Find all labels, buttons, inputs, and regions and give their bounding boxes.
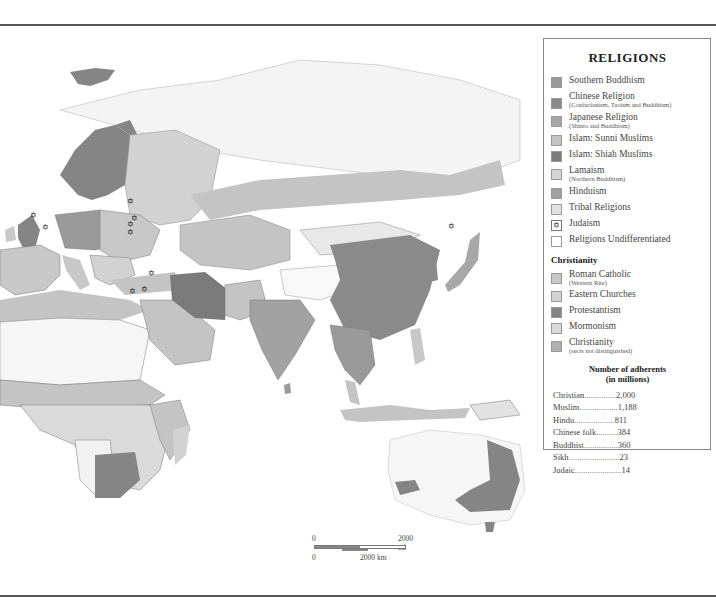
adherents-name: Judaic bbox=[553, 464, 575, 477]
legend-item-lamaism: Lamaism(Northern Buddhism) bbox=[551, 166, 704, 183]
leader-dots: ................... bbox=[574, 414, 614, 427]
bottom-rule bbox=[0, 595, 716, 597]
adherents-row-muslim: Muslim ..................1,188 bbox=[551, 401, 704, 414]
legend-label: Tribal Religions bbox=[569, 203, 631, 213]
swatch-eastern-churches bbox=[551, 291, 562, 302]
swatch-tribal bbox=[551, 204, 562, 215]
adherents-value: 360 bbox=[618, 439, 631, 452]
swatch-roman-catholic bbox=[551, 273, 562, 284]
swatch-christianity-other bbox=[551, 341, 562, 352]
leader-dots: .......... bbox=[596, 426, 617, 439]
judaism-marker-odessa: ✡ bbox=[127, 228, 134, 237]
adherents-row-christian: Christian ...............2,000 bbox=[551, 389, 704, 402]
legend-item-roman-catholic: Roman Catholic(Western Rite) bbox=[551, 270, 704, 287]
adherents-name: Buddhist bbox=[553, 439, 584, 452]
adherents-name: Sikh bbox=[553, 451, 569, 464]
legend-label: Religions Undifferentiated bbox=[569, 235, 670, 245]
swatch-undifferentiated bbox=[551, 236, 562, 247]
adherents-row-hindu: Hindu ...................811 bbox=[551, 414, 704, 427]
judaism-marker-moscow: ✡ bbox=[127, 197, 134, 206]
legend-label: Mormonism bbox=[569, 322, 616, 332]
judaism-marker-israel: ✡ bbox=[141, 285, 148, 294]
swatch-southern-buddhism bbox=[551, 77, 562, 88]
adherents-name: Chinese folk bbox=[553, 426, 596, 439]
swatch-lamaism bbox=[551, 169, 562, 180]
judaism-marker-paris: ✡ bbox=[42, 223, 49, 232]
scale-bar-km-fill bbox=[342, 549, 368, 551]
adherents-heading: Number of adherents (in millions) bbox=[551, 365, 704, 385]
legend-item-protestantism: Protestantism bbox=[551, 306, 704, 318]
adherents-name: Hindu bbox=[553, 414, 574, 427]
legend-item-shiah: Islam: Shiah Muslims bbox=[551, 150, 704, 162]
legend-item-southern-buddhism: Southern Buddhism bbox=[551, 76, 704, 88]
scale-mi-label: 2000 mi bbox=[398, 534, 422, 552]
legend-sublabel: (sects not distinguished) bbox=[569, 348, 632, 355]
legend-label: Protestantism bbox=[569, 306, 621, 316]
adherents-value: 1,188 bbox=[618, 401, 637, 414]
adherents-row-buddhist: Buddhist................360 bbox=[551, 439, 704, 452]
leader-dots: .................. bbox=[579, 401, 617, 414]
adherents-value: 811 bbox=[615, 414, 627, 427]
adherents-value: 2,000 bbox=[616, 389, 635, 402]
leader-dots: ................ bbox=[584, 439, 618, 452]
adherents-value: 23 bbox=[620, 451, 629, 464]
legend-label: Southern Buddhism bbox=[569, 76, 645, 86]
legend-item-mormonism: Mormonism bbox=[551, 322, 704, 334]
legend-item-japanese-religion: Japanese Religion(Shinto and Buddhism) bbox=[551, 113, 704, 130]
swatch-japanese-religion bbox=[551, 116, 562, 127]
legend-label: Eastern Churches bbox=[569, 290, 636, 300]
legend-label: Judaism bbox=[569, 219, 600, 229]
legend-item-eastern-churches: Eastern Churches bbox=[551, 290, 704, 302]
swatch-protestantism bbox=[551, 307, 562, 318]
swatch-sunni bbox=[551, 135, 562, 146]
swatch-shiah bbox=[551, 151, 562, 162]
adherents-row-chinese-folk: Chinese folk..........384 bbox=[551, 426, 704, 439]
christianity-heading: Christianity bbox=[551, 255, 704, 265]
adherents-row-judaic: Judaic......................14 bbox=[551, 464, 704, 477]
legend-item-christianity-other: Christianity(sects not distinguished) bbox=[551, 338, 704, 355]
judaism-marker-birobidzhan: ✡ bbox=[448, 222, 455, 231]
scale-bar: 0 2000 mi 0 2000 km bbox=[312, 534, 422, 574]
leader-dots: ...................... bbox=[575, 464, 622, 477]
adherents-value: 384 bbox=[617, 426, 630, 439]
scale-km-zero: 0 bbox=[312, 553, 316, 562]
leader-dots: ............... bbox=[584, 389, 616, 402]
legend-sublabel: (Western Rite) bbox=[569, 280, 631, 287]
legend-item-tribal: Tribal Religions bbox=[551, 203, 704, 215]
legend-label: Hinduism bbox=[569, 187, 606, 197]
scale-bar-mi-fill bbox=[314, 546, 360, 548]
adherents-value: 14 bbox=[621, 464, 630, 477]
legend-title: RELIGIONS bbox=[551, 50, 704, 66]
legend-item-hinduism: Hinduism bbox=[551, 187, 704, 199]
legend-item-judaism: ✡ Judaism bbox=[551, 219, 704, 231]
judaism-marker-ukraine: ✡ bbox=[131, 214, 138, 223]
adherents-heading-line-2: (in millions) bbox=[551, 375, 704, 385]
judaism-marker-egypt: ✡ bbox=[129, 287, 136, 296]
scale-mi-zero: 0 bbox=[312, 534, 316, 543]
swatch-chinese-religion bbox=[551, 98, 562, 109]
legend-item-undifferentiated: Religions Undifferentiated bbox=[551, 235, 704, 247]
swatch-mormonism bbox=[551, 323, 562, 334]
star-of-david-icon: ✡ bbox=[551, 220, 562, 231]
region-sahara bbox=[0, 318, 150, 385]
adherents-name: Muslim bbox=[553, 401, 579, 414]
legend-sublabel: (Shinto and Buddhism) bbox=[569, 123, 638, 130]
judaism-marker-syria: ✡ bbox=[148, 269, 155, 278]
scale-km-label: 2000 km bbox=[360, 553, 386, 562]
adherents-row-sikh: Sikh........................23 bbox=[551, 451, 704, 464]
judaism-marker-london: ✡ bbox=[30, 211, 37, 220]
adherents-name: Christian bbox=[553, 389, 584, 402]
legend-sublabel: (Northern Buddhism) bbox=[569, 176, 625, 183]
legend-label: Islam: Shiah Muslims bbox=[569, 150, 652, 160]
leader-dots: ........................ bbox=[569, 451, 620, 464]
swatch-hinduism bbox=[551, 188, 562, 199]
legend-label: Islam: Sunni Muslims bbox=[569, 134, 653, 144]
legend-panel: RELIGIONS Southern Buddhism Chinese Reli… bbox=[543, 38, 711, 450]
legend-item-sunni: Islam: Sunni Muslims bbox=[551, 134, 704, 146]
legend-item-chinese-religion: Chinese Religion(Confucianism, Taoism an… bbox=[551, 92, 704, 109]
legend-sublabel: (Confucianism, Taoism and Buddhism) bbox=[569, 102, 671, 109]
